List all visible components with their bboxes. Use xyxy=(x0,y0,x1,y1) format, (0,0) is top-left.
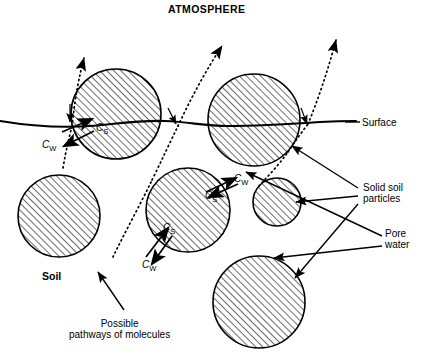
conc-sub: W xyxy=(49,144,56,153)
conc-sub: W xyxy=(241,178,248,187)
pathways-caption: Possible pathways of molecules xyxy=(69,318,170,340)
pathway-left-lower xyxy=(63,126,72,168)
concentration-sorbed-label-1: CS xyxy=(96,122,108,136)
concentration-sorbed-label-3: CS xyxy=(163,222,175,236)
conc-sub: W xyxy=(149,264,156,273)
pore-water-label: Pore water xyxy=(385,228,409,250)
pathway-right-upper xyxy=(308,40,336,124)
concentration-sorbed-label-2: CS xyxy=(205,190,217,204)
particle-top-right xyxy=(208,74,300,166)
conc-sub: S xyxy=(103,127,108,136)
concentration-water-label-2: CW xyxy=(234,173,248,187)
leader-solid-particles-bottom xyxy=(295,204,358,278)
pathway-right-surface-arrow xyxy=(301,108,307,124)
concentration-water-label-3: CW xyxy=(142,259,156,273)
particle-group xyxy=(18,69,305,348)
soil-atmosphere-diagram: ATMOSPHERE Soil Surface Solid soil parti… xyxy=(0,0,433,358)
leader-pore-water-lower xyxy=(274,246,382,258)
leader-solid-particles-small xyxy=(296,196,358,202)
particle-left xyxy=(18,175,100,257)
soil-label: Soil xyxy=(42,271,61,283)
leader-solid-particles-top xyxy=(292,146,358,188)
conc-sub: S xyxy=(170,227,175,236)
particle-top-left xyxy=(71,69,161,159)
surface-label: Surface xyxy=(362,117,396,128)
diagram-canvas xyxy=(0,0,433,358)
particle-bottom-right xyxy=(213,256,305,348)
atmosphere-title: ATMOSPHERE xyxy=(168,4,245,16)
solid-soil-particles-label: Solid soil particles xyxy=(363,182,403,204)
concentration-water-label-1: CW xyxy=(42,139,56,153)
conc-sub: S xyxy=(212,195,217,204)
leader-pathways-caption xyxy=(98,272,124,310)
